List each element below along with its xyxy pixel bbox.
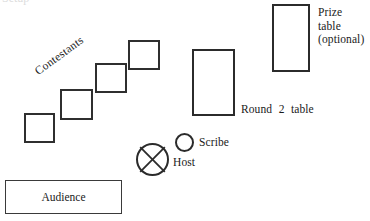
contestant-desk-2 xyxy=(60,89,93,120)
round-2-table-label: Round 2 table xyxy=(241,103,314,117)
audience-label: Audience xyxy=(5,180,122,214)
prize-table-label: Prize table (optional) xyxy=(318,6,364,47)
host-marker xyxy=(136,143,169,176)
contestants-label: Contestants xyxy=(32,34,85,77)
contestant-desk-4 xyxy=(128,40,160,70)
contestant-desk-1 xyxy=(24,113,55,143)
clipped-heading-text: Setup xyxy=(2,0,29,6)
scribe-marker xyxy=(175,133,194,152)
contestant-desk-3 xyxy=(95,63,127,93)
scribe-label: Scribe xyxy=(199,136,229,150)
host-cross-icon xyxy=(138,145,167,174)
room-layout-diagram: Setup Contestants Round 2 table Prize ta… xyxy=(0,0,370,221)
round-2-table-shape xyxy=(192,49,235,116)
host-label: Host xyxy=(173,156,195,170)
prize-table-shape xyxy=(272,4,310,72)
